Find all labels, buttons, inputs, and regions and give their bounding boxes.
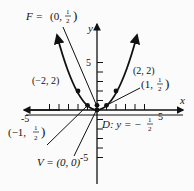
- svg-text:1: 1: [148, 116, 152, 124]
- point-2-2: [114, 89, 119, 94]
- label-point-2-2: (2, 2): [133, 65, 155, 77]
- leader-lines: [47, 27, 140, 156]
- svg-text:): ): [73, 8, 77, 23]
- svg-text:D: y = −: D: y = −: [101, 118, 142, 130]
- x-tick-label-neg5: -5: [21, 113, 29, 124]
- svg-text:): ): [41, 124, 45, 139]
- svg-text:(0,: (0,: [50, 10, 62, 23]
- directrix-label: D: y = − 1 2: [101, 116, 153, 133]
- vertex-label: V = (0, 0): [37, 156, 81, 169]
- point-neg2-2: [76, 89, 81, 94]
- y-tick-label-5: 5: [86, 57, 91, 68]
- parabola-diagram: y x 5 -5 -5 5 F = (0, 1 2 ) (−2, 2) (2, …: [0, 0, 194, 191]
- svg-text:F =: F =: [25, 10, 43, 22]
- svg-text:2: 2: [66, 17, 70, 25]
- point-1-half: [104, 103, 109, 108]
- y-tick-label-neg5: -5: [80, 152, 88, 163]
- svg-text:2: 2: [148, 125, 152, 133]
- focus-label: F = (0, 1 2 ): [25, 8, 77, 25]
- svg-text:1: 1: [66, 8, 70, 16]
- y-axis-label: y: [87, 22, 93, 34]
- x-tick-label-5: 5: [158, 111, 163, 122]
- svg-text:(1,: (1,: [141, 78, 153, 91]
- label-point-neg1-half: (−1, 1 2 ): [8, 124, 45, 142]
- diagram-canvas: y x 5 -5 -5 5 F = (0, 1 2 ) (−2, 2) (2, …: [0, 0, 194, 191]
- svg-text:(−1,: (−1,: [8, 126, 26, 139]
- svg-text:2: 2: [34, 134, 38, 142]
- label-point-neg2-2: (−2, 2): [32, 75, 59, 87]
- svg-text:1: 1: [158, 76, 162, 84]
- svg-text:1: 1: [34, 124, 38, 132]
- svg-text:2: 2: [158, 85, 162, 93]
- label-point-1-half: (1, 1 2 ): [141, 76, 169, 93]
- svg-text:): ): [165, 76, 169, 91]
- x-axis-label: x: [179, 94, 185, 106]
